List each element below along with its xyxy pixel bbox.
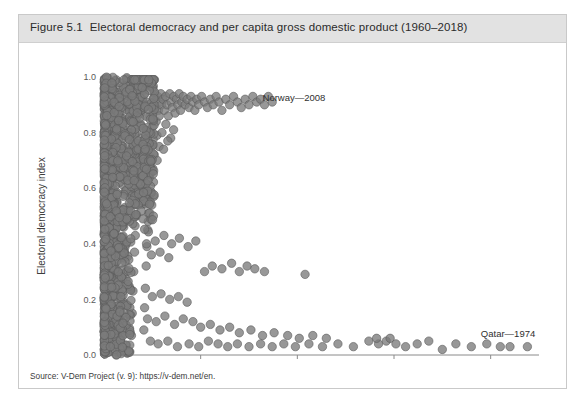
data-point xyxy=(157,290,165,298)
data-point xyxy=(523,342,531,350)
data-point xyxy=(149,115,157,123)
data-point xyxy=(140,326,148,334)
data-point xyxy=(200,267,208,275)
data-point xyxy=(283,331,291,339)
data-point xyxy=(295,334,303,342)
data-point xyxy=(108,283,116,291)
data-point xyxy=(156,248,164,256)
data-point xyxy=(189,317,197,325)
data-point xyxy=(100,312,108,320)
data-point xyxy=(102,200,110,208)
data-point xyxy=(114,157,122,165)
data-point xyxy=(185,340,193,348)
data-point xyxy=(101,225,109,233)
data-point xyxy=(164,137,172,145)
data-point xyxy=(227,259,235,267)
figure-title: Figure 5.1Electoral democracy and per ca… xyxy=(30,21,467,33)
data-point xyxy=(195,342,203,350)
data-point xyxy=(233,340,241,348)
data-point xyxy=(243,262,251,270)
data-point xyxy=(159,145,167,153)
data-point xyxy=(144,105,152,113)
data-point xyxy=(101,274,109,282)
data-point xyxy=(305,340,313,348)
data-point xyxy=(165,254,173,262)
data-point xyxy=(256,340,264,348)
data-point xyxy=(125,199,133,207)
data-point xyxy=(179,315,187,323)
data-point xyxy=(108,79,116,87)
data-point xyxy=(147,157,155,165)
data-point xyxy=(162,120,170,128)
data-point xyxy=(151,237,159,245)
data-point xyxy=(107,247,115,255)
data-point xyxy=(467,342,475,350)
data-point xyxy=(138,83,146,91)
data-point xyxy=(148,216,156,224)
data-point xyxy=(100,93,108,101)
data-point xyxy=(483,340,491,348)
data-point xyxy=(115,243,123,251)
data-point xyxy=(100,188,108,196)
data-point xyxy=(145,200,153,208)
data-point xyxy=(120,76,128,84)
data-point xyxy=(349,342,357,350)
data-point xyxy=(174,292,182,300)
data-point xyxy=(164,337,172,345)
data-point xyxy=(144,177,152,185)
figure-number: Figure 5.1 xyxy=(30,21,83,33)
data-point xyxy=(140,225,148,233)
data-point xyxy=(170,320,178,328)
data-point xyxy=(132,210,140,218)
x-axis-ticks: 050,000100,000150,000200,000 xyxy=(101,355,506,361)
data-point xyxy=(268,342,276,350)
scatter-plot-svg: 0.00.20.40.60.81.0 050,000100,000150,000… xyxy=(19,43,566,361)
data-point xyxy=(496,342,504,350)
data-point xyxy=(139,188,147,196)
figure-container: Figure 5.1Electoral democracy and per ca… xyxy=(18,14,567,389)
data-point xyxy=(301,270,309,278)
data-point xyxy=(158,128,166,136)
data-point xyxy=(208,262,216,270)
figure-header-band: Figure 5.1Electoral democracy and per ca… xyxy=(19,15,566,43)
data-point xyxy=(100,136,108,144)
data-point xyxy=(150,94,158,102)
data-point xyxy=(117,292,125,300)
data-point xyxy=(149,170,157,178)
data-point xyxy=(218,265,226,273)
data-point xyxy=(127,296,135,304)
data-point xyxy=(237,103,245,111)
data-point xyxy=(322,334,330,342)
data-point xyxy=(401,342,409,350)
data-point xyxy=(101,121,109,129)
data-point xyxy=(161,312,169,320)
data-point xyxy=(235,267,243,275)
annotations-layer: Norway—2008Qatar—1974 xyxy=(263,92,536,339)
data-point xyxy=(115,102,123,110)
data-point xyxy=(131,76,139,84)
data-point xyxy=(175,234,183,242)
data-point xyxy=(143,315,151,323)
data-point xyxy=(247,326,255,334)
data-point xyxy=(169,126,177,134)
data-point xyxy=(141,145,149,153)
data-point xyxy=(145,76,153,84)
data-point xyxy=(118,343,126,351)
data-point xyxy=(183,298,191,306)
data-point xyxy=(115,213,123,221)
data-point xyxy=(214,340,222,348)
data-point xyxy=(101,152,109,160)
data-point xyxy=(104,261,112,269)
data-point xyxy=(102,305,110,313)
data-point xyxy=(147,251,155,259)
y-tick-label: 0.8 xyxy=(83,128,96,138)
scatter-plot: 0.00.20.40.60.81.0 050,000100,000150,000… xyxy=(19,43,566,361)
data-point xyxy=(139,124,147,132)
data-point xyxy=(114,268,122,276)
data-point xyxy=(125,135,133,143)
data-point xyxy=(309,331,317,339)
data-point xyxy=(130,176,138,184)
data-point xyxy=(103,111,111,119)
data-point xyxy=(100,331,108,339)
data-point xyxy=(365,337,373,345)
